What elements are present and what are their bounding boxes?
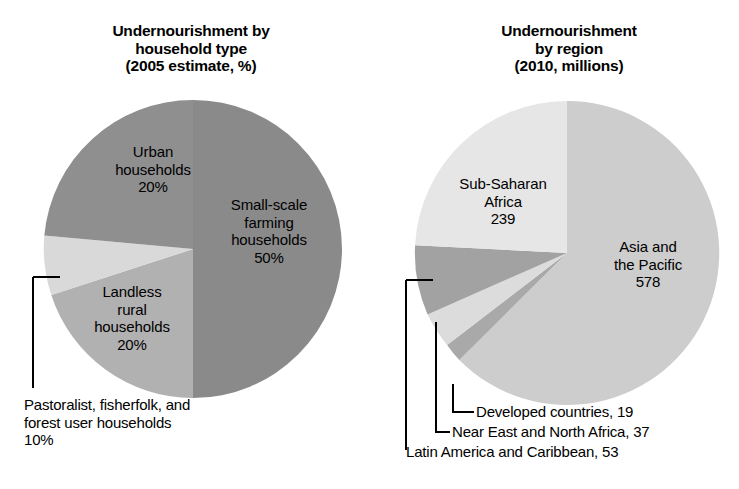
slice-label-line: farming bbox=[205, 214, 333, 232]
slice-value: 239 bbox=[437, 210, 569, 228]
slice-label-line: Sub-Saharan bbox=[437, 175, 569, 193]
slice-label-small-scale-farming-households: Small-scale farming households 50% bbox=[205, 196, 333, 266]
slice-value: 50% bbox=[205, 249, 333, 267]
slice-label-line: Asia and bbox=[586, 238, 710, 256]
slice-label-landless-rural-households: Landless rural households 20% bbox=[70, 283, 194, 353]
slice-value: 578 bbox=[586, 273, 710, 291]
slice-label-line: Urban bbox=[88, 143, 218, 161]
slice-value: 20% bbox=[88, 178, 218, 196]
callout-pastoralist-fisherfolk-forest-user-households: Pastoralist, fisherfolk, and forest user… bbox=[24, 396, 324, 449]
leader-line-developed-countries bbox=[453, 384, 474, 412]
slice-label-line: households bbox=[205, 231, 333, 249]
slice-label-sub-saharan-africa: Sub-Saharan Africa 239 bbox=[437, 175, 569, 228]
slice-label-line: the Pacific bbox=[586, 256, 710, 274]
slice-label-asia-and-the-pacific: Asia and the Pacific 578 bbox=[586, 238, 710, 291]
callout-value: 10% bbox=[24, 431, 324, 449]
callout-latin-america-and-caribbean: Latin America and Caribbean, 53 bbox=[406, 443, 736, 461]
callout-line: forest user households bbox=[24, 414, 324, 432]
slice-label-urban-households: Urban households 20% bbox=[88, 143, 218, 196]
figure-canvas: Undernourishment by household type (2005… bbox=[0, 0, 739, 489]
slice-label-line: Landless bbox=[70, 283, 194, 301]
callout-developed-countries: Developed countries, 19 bbox=[476, 403, 736, 421]
slice-label-line: rural bbox=[70, 301, 194, 319]
callout-line: Pastoralist, fisherfolk, and bbox=[24, 396, 324, 414]
callout-near-east-and-north-africa: Near East and North Africa, 37 bbox=[452, 423, 732, 441]
slice-label-line: Small-scale bbox=[205, 196, 333, 214]
slice-label-line: households bbox=[88, 161, 218, 179]
slice-label-line: households bbox=[70, 318, 194, 336]
slice-value: 20% bbox=[70, 336, 194, 354]
slice-label-line: Africa bbox=[437, 193, 569, 211]
